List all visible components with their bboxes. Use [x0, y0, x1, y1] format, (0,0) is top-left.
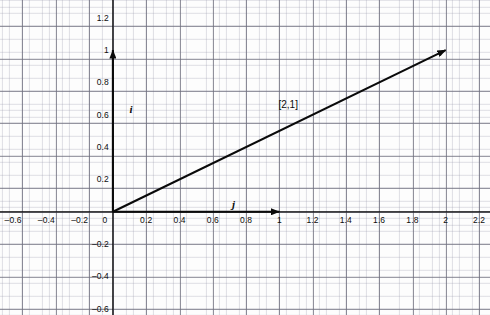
y-tick-label: –0.2 [83, 239, 109, 249]
y-tick-label: 1.2 [83, 13, 109, 23]
x-tick-label: 0.2 [140, 215, 152, 225]
resultant-vector-label: [2,1] [278, 99, 297, 110]
x-tick-label: 0 [102, 215, 107, 225]
y-tick-label: 0.2 [83, 174, 109, 184]
i-basis-vector-label: i [130, 103, 133, 115]
vector-plot: –0.6–0.4–0.200.20.40.60.811.21.41.61.822… [0, 0, 490, 315]
y-tick-label: –0.6 [83, 304, 109, 314]
x-tick-label: –0.4 [38, 215, 55, 225]
x-tick-label: 2.2 [473, 215, 485, 225]
x-tick-label: 1.8 [406, 215, 418, 225]
vector-svg-layer [0, 0, 490, 315]
x-tick-label: 0.4 [173, 215, 185, 225]
resultant-vector [113, 50, 446, 212]
x-tick-label: 0.6 [207, 215, 219, 225]
x-tick-label: 1 [277, 215, 282, 225]
y-tick-label: 0.6 [83, 110, 109, 120]
x-tick-label: 2 [443, 215, 448, 225]
x-tick-label: 1.2 [307, 215, 319, 225]
j-basis-vector-label: j [232, 198, 235, 210]
axes [0, 0, 490, 315]
y-tick-label: –0.4 [83, 271, 109, 281]
x-tick-label: 0.8 [240, 215, 252, 225]
y-tick-label: 1 [83, 45, 109, 55]
y-tick-label: 0.4 [83, 142, 109, 152]
vectors [113, 50, 446, 212]
x-tick-label: 1.4 [340, 215, 352, 225]
x-tick-label: –0.6 [5, 215, 22, 225]
x-tick-label: 1.6 [373, 215, 385, 225]
y-tick-label: 0.8 [83, 77, 109, 87]
x-tick-label: –0.2 [71, 215, 88, 225]
